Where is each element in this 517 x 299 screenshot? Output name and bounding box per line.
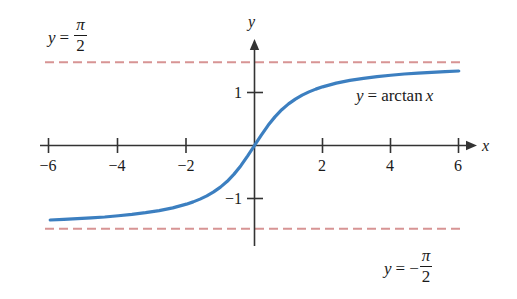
y-axis-label: y [248, 14, 255, 30]
y-axis-arrowhead [250, 39, 259, 50]
y-tick-label-1: 1 [212, 85, 242, 101]
curve-label-function-name: arctan [381, 86, 423, 105]
x-tick-label-4: 4 [386, 158, 394, 174]
x-axis-label: x [482, 138, 489, 154]
x-tick-label--6: −6 [39, 158, 56, 174]
arctan-graph-figure: y=π2 y=−π2 y=arctanx x y −6 −4 −2 2 4 6 … [0, 0, 517, 299]
y-tick-label--1: −1 [206, 191, 242, 207]
x-tick-label--4: −4 [108, 158, 125, 174]
upper-asymptote-denominator: 2 [74, 37, 87, 55]
upper-asymptote-numerator: π [74, 16, 87, 34]
lower-asymptote-sign: − [409, 259, 419, 278]
x-tick-label--2: −2 [177, 158, 194, 174]
upper-asymptote-equals: = [60, 28, 70, 47]
curve-label-lhs: y [356, 86, 364, 105]
x-tick-label-2: 2 [318, 158, 326, 174]
lower-asymptote-fraction: π2 [420, 247, 433, 285]
lower-asymptote-lhs: y [384, 259, 392, 278]
upper-asymptote-lhs: y [48, 28, 56, 47]
lower-asymptote-label: y=−π2 [384, 247, 433, 285]
upper-asymptote-fraction: π2 [74, 16, 87, 54]
curve-equation-label: y=arctanx [356, 87, 433, 104]
x-tick-label-6: 6 [454, 158, 462, 174]
curve-label-argument: x [426, 86, 434, 105]
lower-asymptote-equals: = [396, 259, 406, 278]
lower-asymptote-denominator: 2 [420, 268, 433, 286]
lower-asymptote-numerator: π [420, 247, 433, 265]
upper-asymptote-label: y=π2 [48, 16, 88, 54]
x-axis-arrowhead [466, 141, 477, 150]
curve-label-equals: = [368, 86, 378, 105]
